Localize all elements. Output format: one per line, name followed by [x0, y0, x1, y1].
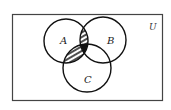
- label-c: C: [84, 74, 92, 85]
- label-b: B: [106, 35, 114, 46]
- label-a: A: [59, 35, 67, 46]
- label-universe: U: [149, 22, 157, 32]
- venn-diagram: A B C U: [0, 0, 171, 110]
